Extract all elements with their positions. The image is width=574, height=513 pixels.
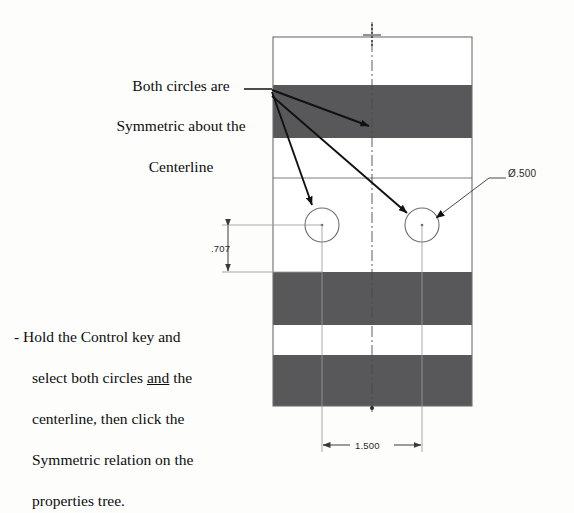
band-gray-1 bbox=[273, 85, 472, 138]
part-body bbox=[273, 37, 472, 406]
horizontal-dimension-label: 1.500 bbox=[355, 440, 380, 451]
vertical-dimension-label: .707 bbox=[211, 243, 230, 254]
circle-right-center-point-icon bbox=[421, 224, 424, 227]
band-white-2 bbox=[273, 138, 472, 178]
symmetric-note-line-2: Symmetric about the bbox=[88, 116, 274, 136]
instruction-line-5: properties tree. bbox=[23, 491, 249, 512]
instruction-line-2: select both circles and the bbox=[23, 368, 249, 389]
instruction-line-1: - Hold the Control key and bbox=[23, 327, 249, 348]
instruction-line-2-text: select both circles bbox=[32, 369, 143, 386]
band-gray-2 bbox=[273, 272, 472, 325]
diameter-dimension-label: Ø.500 bbox=[508, 168, 536, 179]
band-white-4 bbox=[273, 325, 472, 355]
instruction-emphasis-word: and bbox=[147, 369, 169, 386]
instruction-line-3: centerline, then click the bbox=[23, 409, 249, 430]
instruction-line-4: Symmetric relation on the bbox=[23, 450, 249, 471]
band-gray-3 bbox=[273, 355, 472, 406]
centerline-bottom-endpoint-icon bbox=[370, 406, 374, 410]
instruction-note: - Hold the Control key and select both c… bbox=[14, 306, 249, 513]
symmetric-callout-note: Both circles are Symmetric about the Cen… bbox=[88, 56, 274, 197]
instruction-line-2-suffix: the bbox=[169, 369, 192, 386]
symmetric-note-line-3: Centerline bbox=[88, 157, 274, 177]
symmetric-note-line-1: Both circles are bbox=[88, 76, 274, 96]
